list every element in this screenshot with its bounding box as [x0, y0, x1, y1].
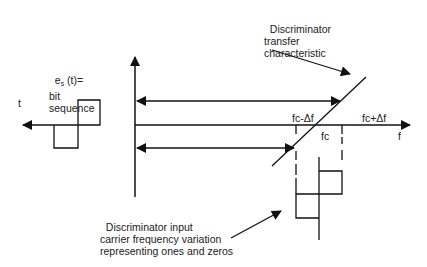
frequency-axis-label: f — [398, 130, 401, 142]
discriminator-input-label: Discriminator inputcarrier frequency var… — [100, 209, 233, 257]
input-pointer-arrow — [231, 211, 281, 238]
input-waveform — [296, 157, 342, 240]
bit-sequence-label: es (t)=bitsequence — [49, 62, 95, 114]
fc-label: fc — [321, 130, 329, 142]
time-axis-label: t — [18, 97, 21, 109]
fc-minus-label: fc-Δf — [292, 112, 314, 124]
transfer-characteristic-label: Discriminatortransfercharacteristic — [264, 11, 331, 59]
transfer-characteristic-line — [272, 77, 366, 166]
fc-plus-label: fc+Δf — [362, 112, 386, 124]
